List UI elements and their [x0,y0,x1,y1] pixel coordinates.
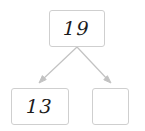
node-left-box[interactable]: 13 [11,88,69,125]
node-left-value: 13 [26,97,54,116]
node-right-box[interactable] [92,88,129,125]
node-root-box[interactable]: 19 [49,10,105,47]
edge-root-to-right [77,47,111,83]
edge-root-to-left [39,47,77,83]
number-bond-diagram: 19 13 [0,0,145,131]
node-root-value: 19 [63,19,91,38]
